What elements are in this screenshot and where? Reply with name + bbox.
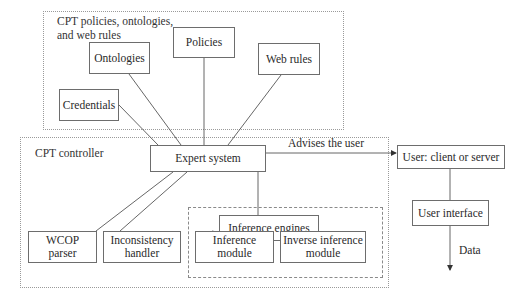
expert-system-node: Expert system bbox=[150, 145, 266, 172]
user-node: User: client or server bbox=[397, 145, 505, 169]
inference-module-label-2: module bbox=[217, 247, 252, 260]
architecture-diagram: CPT policies, ontologies, and web rules … bbox=[0, 0, 526, 302]
inverse-inference-label-2: module bbox=[306, 247, 341, 260]
ontologies-node: Ontologies bbox=[89, 42, 150, 74]
web-rules-node: Web rules bbox=[258, 43, 320, 75]
inverse-inference-label-1: Inverse inference bbox=[283, 234, 363, 247]
user-label: User: client or server bbox=[403, 151, 500, 164]
credentials-label: Credentials bbox=[63, 99, 115, 112]
inconsistency-label-1: Inconsistency bbox=[110, 234, 173, 247]
inconsistency-handler-node: Inconsistency handler bbox=[103, 231, 181, 263]
data-label: Data bbox=[459, 244, 481, 256]
web-rules-label: Web rules bbox=[266, 53, 312, 66]
edge-webrules-expert bbox=[228, 75, 281, 145]
expert-system-label: Expert system bbox=[175, 152, 240, 165]
inverse-inference-module-node: Inverse inference module bbox=[280, 231, 366, 263]
inconsistency-label-2: handler bbox=[125, 247, 159, 260]
user-interface-node: User interface bbox=[412, 200, 489, 226]
wcop-parser-node: WCOP parser bbox=[28, 231, 97, 263]
edge-expert-inconsistency bbox=[120, 172, 187, 231]
wcop-parser-label-2: parser bbox=[48, 247, 76, 260]
credentials-node: Credentials bbox=[59, 89, 119, 121]
advises-user-label: Advises the user bbox=[288, 137, 364, 149]
edge-credentials-expert bbox=[119, 105, 158, 145]
inference-module-label-1: Inference bbox=[213, 234, 256, 247]
policies-node: Policies bbox=[173, 27, 235, 58]
policies-label: Policies bbox=[186, 36, 222, 49]
edge-expert-wcop bbox=[96, 172, 173, 231]
wcop-parser-label-1: WCOP bbox=[46, 234, 79, 247]
edge-ontologies-expert bbox=[129, 74, 181, 145]
ontologies-label: Ontologies bbox=[94, 52, 144, 65]
inference-module-node: Inference module bbox=[195, 231, 274, 263]
user-interface-label: User interface bbox=[418, 207, 483, 220]
